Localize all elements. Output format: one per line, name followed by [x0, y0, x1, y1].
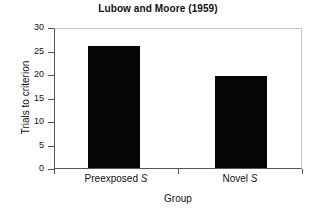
chart-figure: Lubow and Moore (1959) 051015202530 Pree… [0, 0, 316, 217]
bar-novel [215, 76, 267, 168]
x-axis-category-label: Novel S [165, 173, 315, 184]
x-axis-title: Group [54, 193, 302, 204]
chart-title: Lubow and Moore (1959) [0, 3, 316, 14]
plot-area [54, 28, 302, 169]
y-axis-title: Trials to criterion [20, 23, 31, 173]
bar-preexposed [88, 46, 140, 168]
